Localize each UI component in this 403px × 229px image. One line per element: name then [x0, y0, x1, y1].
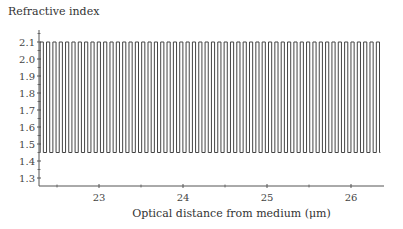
x-axis-title: Optical distance from medium (μm): [0, 207, 403, 220]
y-tick-label: 2.0: [19, 54, 35, 65]
x-tick-label: 26: [345, 192, 358, 203]
x-tick-label: 23: [93, 192, 106, 203]
y-tick-label: 1.8: [19, 88, 35, 99]
chart-plot: 1.31.41.51.61.71.81.92.02.123242526: [0, 0, 403, 229]
x-tick-label: 24: [177, 192, 190, 203]
refractive-index-square-wave: [40, 42, 380, 153]
y-tick-label: 1.7: [19, 105, 35, 116]
x-tick-label: 25: [261, 192, 274, 203]
y-tick-label: 1.6: [19, 122, 35, 133]
y-tick-label: 1.5: [19, 139, 35, 150]
y-tick-label: 1.3: [19, 173, 35, 184]
y-tick-label: 1.4: [19, 156, 35, 167]
y-tick-label: 1.9: [19, 71, 35, 82]
y-tick-label: 2.1: [19, 37, 35, 48]
